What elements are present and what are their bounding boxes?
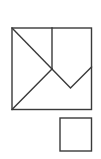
v-notch <box>52 67 92 88</box>
diagonal-bottom-left <box>12 69 52 110</box>
small-square <box>60 118 92 151</box>
diagonal-top-left <box>12 28 52 69</box>
geometry-diagram <box>0 0 101 159</box>
